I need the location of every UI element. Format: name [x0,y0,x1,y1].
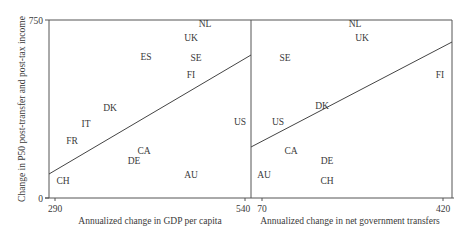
x-tick-label-420: 420 [436,204,451,214]
right-panel-points: NL UK SE FI DK US CA DE AU CH [257,19,444,186]
x-tick-label-70: 70 [257,204,267,214]
point-label-se-right: SE [279,53,290,63]
point-label-fi: FI [187,70,195,80]
right-x-axis-title: Annualized change in net government tran… [260,216,440,226]
y-tick-label-750: 750 [29,16,44,26]
point-label-uk: UK [184,33,198,43]
point-label-dk-right: DK [315,101,329,111]
left-panel-points: NL UK ES SE FI DK IT US FR CA DE AU CH [56,19,246,186]
point-label-nl: NL [199,19,212,29]
point-label-se: SE [190,53,201,63]
point-label-ch: CH [56,176,69,186]
point-label-us-right: US [272,117,284,127]
point-label-ca: CA [137,146,150,156]
point-label-au-right: AU [257,170,271,180]
point-label-fr: FR [66,136,78,146]
point-label-us: US [234,117,246,127]
scatter-chart: 750 0 290 540 70 420 Annualized change i… [0,0,471,239]
point-label-uk-right: UK [355,33,369,43]
point-label-de: DE [128,156,141,166]
y-axis-title: Change in P50 post-transfer and post-tax… [17,16,27,202]
point-label-ca-right: CA [284,146,297,156]
y-tick-label-0: 0 [38,194,43,204]
point-label-es: ES [140,52,151,62]
point-label-dk: DK [103,103,117,113]
point-label-ch-right: CH [320,176,333,186]
point-label-nl-right: NL [349,19,362,29]
point-label-de-right: DE [321,156,334,166]
point-label-it: IT [82,119,91,129]
point-label-au: AU [184,170,198,180]
x-tick-label-290: 290 [48,204,63,214]
x-tick-label-540: 540 [236,204,251,214]
left-fit-line [49,55,251,174]
point-label-fi-right: FI [436,70,444,80]
left-x-axis-title: Annualized change in GDP per capita [78,216,222,226]
